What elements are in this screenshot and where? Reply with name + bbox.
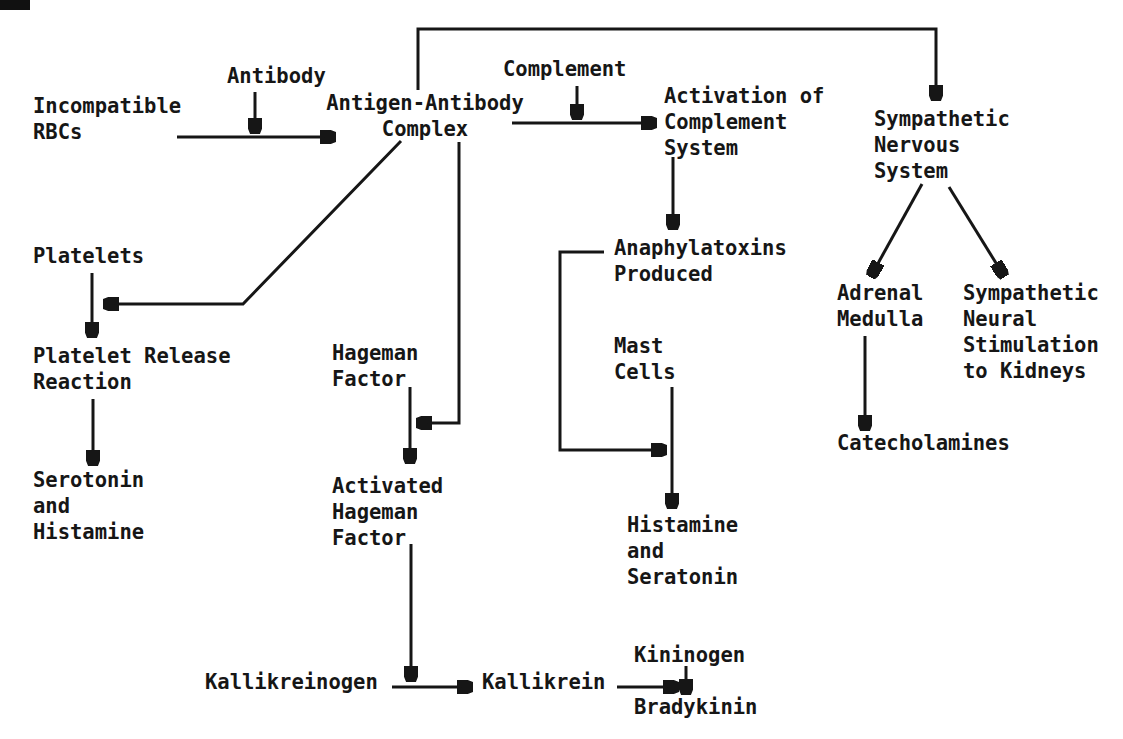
- node-anaphylatoxins-produced: Anaphylatoxins Produced: [614, 235, 787, 287]
- node-platelets: Platelets: [33, 243, 144, 269]
- node-antigen-antibody-complex: Antigen-Antibody Complex: [324, 90, 526, 142]
- edge-complex-to-platelets: [104, 141, 401, 304]
- node-bradykinin: Bradykinin: [634, 694, 757, 720]
- flowchart-canvas: Incompatible RBCs Antibody Antigen-Antib…: [0, 0, 1123, 739]
- node-platelet-release-reaction: Platelet Release Reaction: [33, 343, 230, 395]
- edge-complex-to-hageman: [417, 142, 459, 423]
- edge-sns-to-neural: [949, 187, 1004, 276]
- node-incompatible-rbcs: Incompatible RBCs: [33, 93, 181, 145]
- node-histamine-and-seratonin: Histamine and Seratonin: [627, 512, 738, 590]
- node-hageman-factor: Hageman Factor: [332, 340, 418, 392]
- node-kallikreinogen: Kallikreinogen: [205, 669, 378, 695]
- node-sympathetic-neural-stimulation-to-kidneys: Sympathetic Neural Stimulation to Kidney…: [963, 280, 1099, 384]
- node-adrenal-medulla: Adrenal Medulla: [837, 280, 923, 332]
- node-complement: Complement: [503, 56, 626, 82]
- node-activation-of-complement-system: Activation of Complement System: [664, 83, 824, 161]
- node-serotonin-and-histamine: Serotonin and Histamine: [33, 467, 144, 545]
- node-sympathetic-nervous-system: Sympathetic Nervous System: [874, 106, 1010, 184]
- node-kininogen: Kininogen: [634, 642, 745, 668]
- node-activated-hageman-factor: Activated Hageman Factor: [332, 473, 443, 551]
- node-kallikrein: Kallikrein: [482, 669, 605, 695]
- edge-sns-to-adrenal: [871, 184, 922, 276]
- node-antibody: Antibody: [227, 63, 326, 89]
- node-catecholamines: Catecholamines: [837, 430, 1010, 456]
- node-mast-cells: Mast Cells: [614, 333, 676, 385]
